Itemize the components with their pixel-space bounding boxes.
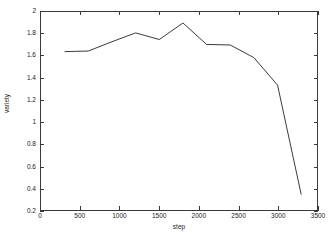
y-tick-mark <box>314 55 318 56</box>
y-tick-label: 1 <box>10 119 36 126</box>
x-tick-mark <box>159 206 160 211</box>
x-tick-label: 3500 <box>298 213 332 220</box>
y-tick-label: 1.4 <box>10 75 36 82</box>
x-tick-label: 1000 <box>99 213 139 220</box>
x-tick-mark <box>199 11 200 15</box>
x-axis-title: step <box>40 223 318 230</box>
x-tick-label: 3000 <box>258 213 298 220</box>
y-tick-label: 1.6 <box>10 52 36 59</box>
y-tick-mark <box>40 167 44 168</box>
x-tick-mark <box>119 11 120 15</box>
y-tick-label: 2 <box>10 8 36 15</box>
x-tick-label: 2500 <box>219 213 259 220</box>
x-tick-mark <box>278 11 279 15</box>
y-tick-label: 0.6 <box>10 164 36 171</box>
y-tick-mark <box>40 144 44 145</box>
x-tick-mark <box>159 11 160 15</box>
y-tick-label: 0.8 <box>10 141 36 148</box>
x-tick-label: 0 <box>20 213 60 220</box>
x-tick-mark <box>239 11 240 15</box>
x-tick-mark <box>318 206 319 211</box>
plot-area <box>40 11 318 211</box>
y-tick-mark <box>40 78 44 79</box>
y-tick-mark <box>314 100 318 101</box>
x-tick-label: 2000 <box>179 213 219 220</box>
x-tick-mark <box>318 11 319 15</box>
y-tick-mark <box>314 189 318 190</box>
y-tick-mark <box>314 78 318 79</box>
figure-canvas: 0.20.40.60.811.21.41.61.82 0500100015002… <box>0 0 332 236</box>
series-polyline <box>65 23 302 195</box>
x-tick-mark <box>239 206 240 211</box>
x-tick-mark <box>40 11 41 15</box>
x-tick-label: 1500 <box>139 213 179 220</box>
y-tick-label: 0.4 <box>10 186 36 193</box>
y-tick-mark <box>314 144 318 145</box>
y-axis-title: variety <box>3 84 10 124</box>
y-tick-label: 1.8 <box>10 30 36 37</box>
y-tick-mark <box>40 189 44 190</box>
y-tick-mark <box>314 33 318 34</box>
y-tick-mark <box>314 167 318 168</box>
x-tick-mark <box>80 11 81 15</box>
y-tick-mark <box>40 122 44 123</box>
data-line-series <box>41 12 317 210</box>
x-tick-mark <box>278 206 279 211</box>
x-tick-mark <box>119 206 120 211</box>
x-tick-mark <box>199 206 200 211</box>
y-tick-mark <box>40 55 44 56</box>
x-tick-label: 500 <box>60 213 100 220</box>
x-tick-mark <box>80 206 81 211</box>
x-tick-mark <box>40 206 41 211</box>
y-tick-label: 1.2 <box>10 97 36 104</box>
y-tick-mark <box>314 122 318 123</box>
y-tick-mark <box>40 33 44 34</box>
y-tick-mark <box>40 100 44 101</box>
